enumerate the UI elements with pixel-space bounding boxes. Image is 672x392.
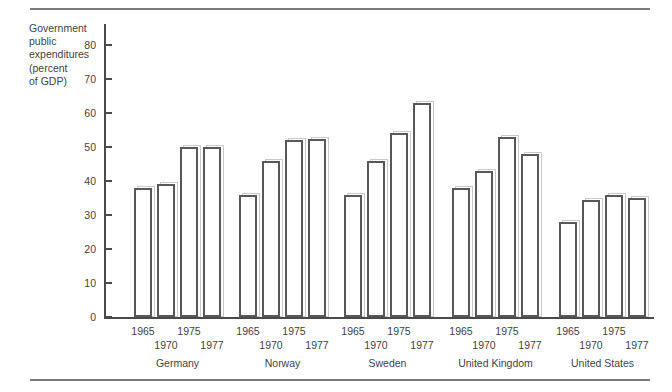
bar bbox=[285, 140, 303, 317]
bar bbox=[582, 200, 600, 317]
y-tick-30 bbox=[104, 214, 112, 216]
y-tick-label-0: 0 bbox=[56, 311, 96, 323]
y-tick-label-30: 30 bbox=[56, 209, 96, 221]
y-tick-60 bbox=[104, 112, 112, 114]
bar bbox=[498, 137, 516, 317]
x-year-label: 1975 bbox=[382, 325, 416, 337]
x-year-label: 1965 bbox=[444, 325, 478, 337]
y-tick-50 bbox=[104, 146, 112, 148]
bar bbox=[628, 198, 646, 317]
x-year-label: 1970 bbox=[359, 339, 393, 351]
bar bbox=[367, 161, 385, 317]
x-year-label: 1970 bbox=[467, 339, 501, 351]
y-tick-label-70: 70 bbox=[56, 73, 96, 85]
x-year-label: 1970 bbox=[254, 339, 288, 351]
y-tick-80 bbox=[104, 44, 112, 46]
bar bbox=[452, 188, 470, 317]
x-year-label: 1970 bbox=[149, 339, 183, 351]
y-axis-line bbox=[104, 24, 106, 319]
bar bbox=[308, 139, 326, 318]
bar bbox=[559, 222, 577, 317]
x-year-label: 1965 bbox=[336, 325, 370, 337]
bar bbox=[390, 133, 408, 317]
y-tick-label-20: 20 bbox=[56, 243, 96, 255]
y-axis-label-line: Government bbox=[29, 22, 101, 35]
figure: Governmentpublicexpenditures(percentof G… bbox=[0, 0, 672, 392]
bar bbox=[239, 195, 257, 317]
x-year-label: 1975 bbox=[172, 325, 206, 337]
x-year-label: 1975 bbox=[490, 325, 524, 337]
y-tick-label-40: 40 bbox=[56, 175, 96, 187]
x-year-label: 1965 bbox=[551, 325, 585, 337]
x-year-label: 1965 bbox=[126, 325, 160, 337]
bar bbox=[262, 161, 280, 317]
year-row-upper: 19651975 bbox=[534, 325, 671, 339]
x-year-label: 1977 bbox=[620, 339, 654, 351]
x-country-label: United States bbox=[534, 357, 671, 369]
y-tick-40 bbox=[104, 180, 112, 182]
x-group-label: 1965197519701977United States bbox=[534, 325, 671, 369]
top-rule bbox=[30, 8, 650, 10]
y-tick-label-10: 10 bbox=[56, 277, 96, 289]
year-row-lower: 19701977 bbox=[534, 339, 671, 353]
y-tick-70 bbox=[104, 78, 112, 80]
bar bbox=[605, 195, 623, 317]
bar bbox=[344, 195, 362, 317]
bar bbox=[157, 184, 175, 317]
bar bbox=[203, 147, 221, 317]
x-year-label: 1975 bbox=[597, 325, 631, 337]
y-tick-label-60: 60 bbox=[56, 107, 96, 119]
plot-area: 01020304050607080 bbox=[104, 24, 652, 319]
bar bbox=[475, 171, 493, 317]
y-tick-label-50: 50 bbox=[56, 141, 96, 153]
y-tick-10 bbox=[104, 282, 112, 284]
x-year-label: 1970 bbox=[574, 339, 608, 351]
y-tick-20 bbox=[104, 248, 112, 250]
y-tick-label-80: 80 bbox=[56, 39, 96, 51]
x-axis-line bbox=[104, 317, 654, 319]
bar bbox=[134, 188, 152, 317]
bar bbox=[413, 103, 431, 317]
bar bbox=[521, 154, 539, 317]
x-year-label: 1975 bbox=[277, 325, 311, 337]
x-year-label: 1965 bbox=[231, 325, 265, 337]
bottom-rule bbox=[30, 379, 650, 381]
y-tick-0 bbox=[104, 316, 112, 318]
bar bbox=[180, 147, 198, 317]
